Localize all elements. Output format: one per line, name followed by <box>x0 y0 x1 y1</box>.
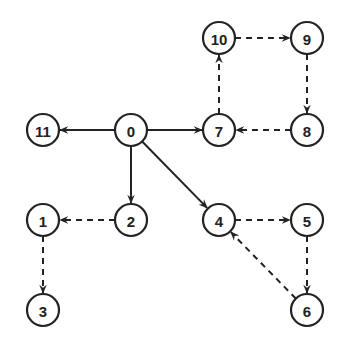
node-2: 2 <box>115 204 147 236</box>
node-label: 1 <box>39 213 47 230</box>
node-label: 10 <box>211 31 228 48</box>
node-0: 0 <box>115 114 147 146</box>
node-label: 5 <box>303 213 311 230</box>
edge-6-to-4 <box>231 232 296 298</box>
node-5: 5 <box>291 204 323 236</box>
edges-layer <box>43 38 307 299</box>
edge-0-to-4 <box>142 141 207 207</box>
node-label: 7 <box>215 123 223 140</box>
node-label: 11 <box>35 123 51 140</box>
node-6: 6 <box>291 294 323 326</box>
node-9: 9 <box>291 22 323 54</box>
node-7: 7 <box>203 114 235 146</box>
node-11: 11 <box>27 114 59 146</box>
node-label: 6 <box>303 303 311 320</box>
node-label: 3 <box>39 303 47 320</box>
graph-diagram: 01171098213456 <box>0 0 342 351</box>
node-10: 10 <box>203 22 235 54</box>
node-4: 4 <box>203 204 235 236</box>
node-8: 8 <box>291 114 323 146</box>
node-label: 0 <box>127 123 135 140</box>
node-label: 2 <box>127 213 135 230</box>
node-label: 8 <box>303 123 311 140</box>
node-label: 9 <box>303 31 311 48</box>
node-3: 3 <box>27 294 59 326</box>
node-1: 1 <box>27 204 59 236</box>
node-label: 4 <box>215 213 224 230</box>
